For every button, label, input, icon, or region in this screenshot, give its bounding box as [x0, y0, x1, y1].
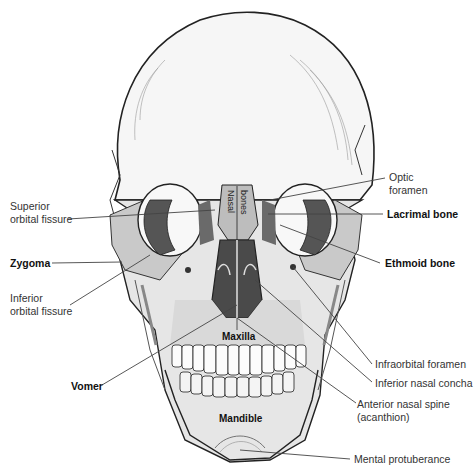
label-vomer: Vomer	[71, 380, 103, 393]
label-lacrimal-bone: Lacrimal bone	[387, 208, 458, 221]
label-ethmoid-bone: Ethmoid bone	[385, 257, 455, 270]
label-zygoma: Zygoma	[10, 257, 50, 270]
label-mental-protuberance: Mental protuberance	[354, 453, 450, 466]
label-inferior-nasal-concha: Inferior nasal concha	[375, 377, 472, 390]
label-nasal: Nasal	[226, 190, 236, 213]
label-text: Superior orbital fissure	[10, 200, 72, 226]
label-text: Optic foramen	[389, 171, 428, 197]
label-inferior-orbital-fissure: Inferior orbital fissure	[10, 292, 72, 318]
label-superior-orbital-fissure: Superior orbital fissure	[10, 200, 72, 226]
label-optic-foramen: Optic foramen	[389, 171, 428, 197]
skull-anatomy-diagram: Superior orbital fissure Zygoma Inferior…	[0, 0, 475, 476]
label-anterior-nasal-spine: Anterior nasal spine (acanthion)	[357, 398, 450, 424]
label-maxilla: Maxilla	[222, 331, 255, 342]
label-text: Anterior nasal spine (acanthion)	[357, 398, 450, 424]
label-text: Inferior orbital fissure	[10, 292, 72, 318]
label-mandible: Mandible	[219, 413, 262, 424]
label-infraorbital-foramen: Infraorbital foramen	[375, 358, 466, 371]
label-bones: bones	[239, 190, 249, 215]
